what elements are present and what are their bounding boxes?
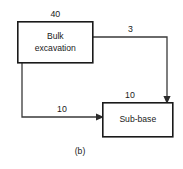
node-bulk-excavation-quantity: 40 xyxy=(50,9,60,19)
figure-caption: (b) xyxy=(75,146,86,156)
node-sub-base-quantity: 10 xyxy=(125,90,135,100)
diagram-canvas: Bulk excavation 40 Sub-base 10 3 10 (b) xyxy=(0,0,183,169)
node-bulk-excavation-label-line2: excavation xyxy=(35,43,76,53)
edge-bulk-to-subbase-left-label: 10 xyxy=(57,104,67,114)
flow-diagram: Bulk excavation 40 Sub-base 10 3 10 (b) xyxy=(0,0,183,169)
node-sub-base-label-line1: Sub-base xyxy=(119,114,156,124)
edge-bulk-to-subbase-top-label: 3 xyxy=(128,24,133,34)
node-bulk-excavation-label-line1: Bulk xyxy=(47,31,64,41)
